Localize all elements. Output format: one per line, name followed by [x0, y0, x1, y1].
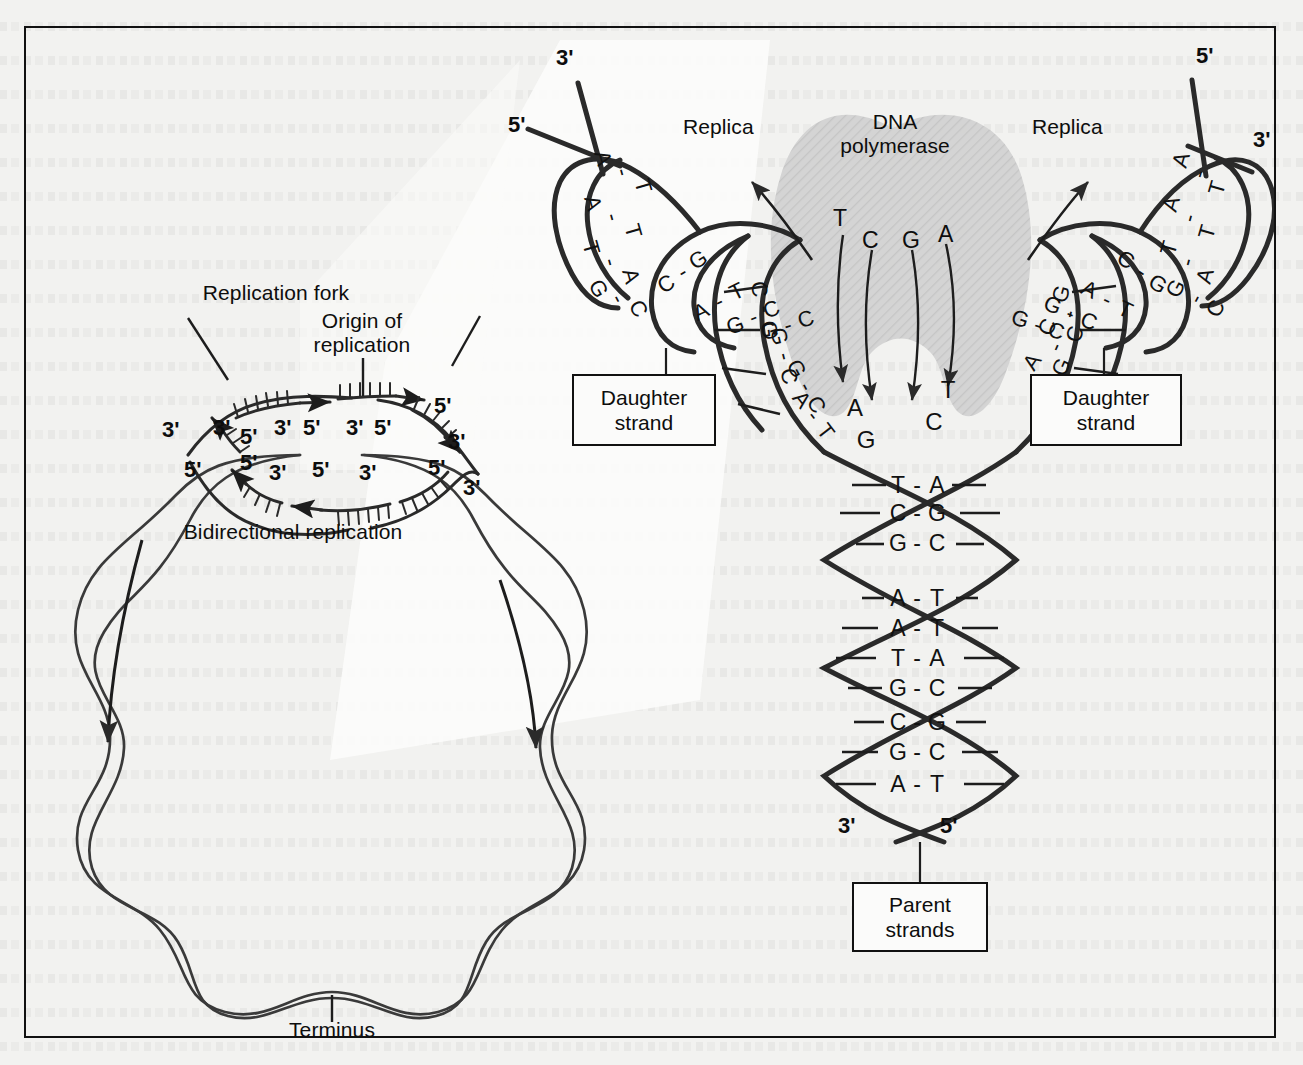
prime-parent-3: 3' [838, 814, 856, 839]
svg-text:A: A [890, 585, 906, 611]
svg-text:-: - [913, 771, 921, 797]
svg-text:G: G [889, 675, 907, 701]
free-nucleotide-g: G [902, 228, 920, 254]
bubble-prime-7: 5' [303, 416, 321, 441]
prime-right-replica-5: 5' [1196, 44, 1214, 69]
svg-text:-: - [913, 530, 921, 556]
svg-text:C: C [890, 709, 907, 735]
svg-text:T: T [891, 472, 905, 498]
label-replica-left: Replica [683, 115, 754, 139]
free-nucleotide-c: C [862, 228, 879, 254]
svg-text:T: T [930, 585, 944, 611]
box-parent-strands: Parent strands [852, 882, 988, 952]
replica-arrow-right [1028, 182, 1088, 260]
svg-text:G: G [889, 530, 907, 556]
bubble-prime-14: 3' [359, 461, 377, 486]
svg-text:C: C [890, 500, 907, 526]
box-daughter-right-line1: Daughter [1063, 385, 1149, 410]
svg-text:A: A [890, 615, 906, 641]
svg-text:G: G [928, 500, 946, 526]
box-daughter-strand-left: Daughter strand [572, 374, 716, 446]
svg-text:A: A [847, 394, 863, 421]
svg-text:-: - [913, 645, 921, 671]
arrow-ul [300, 402, 330, 403]
svg-text:T: T [1155, 238, 1183, 258]
bubble-prime-8: 3' [346, 416, 364, 441]
svg-text:G: G [928, 709, 946, 735]
svg-text:T: T [812, 418, 840, 444]
label-dna-polymerase-line1: DNA [830, 110, 960, 134]
svg-text:T: T [1193, 222, 1221, 242]
label-dna-polymerase-line2: polymerase [830, 134, 960, 158]
prime-right-replica-3: 3' [1253, 128, 1271, 153]
svg-text:T: T [941, 376, 956, 403]
svg-text:T: T [1114, 295, 1137, 323]
svg-text:A: A [929, 472, 945, 498]
label-terminus: Terminus [232, 1018, 432, 1042]
label-origin-of-replication-line1: Origin of [262, 309, 462, 333]
box-daughter-left-line2: strand [601, 410, 687, 435]
svg-text:A: A [1017, 348, 1046, 374]
bubble-prime-13: 5' [312, 458, 330, 483]
box-parent-line1: Parent [886, 892, 955, 917]
svg-text:T: T [1203, 178, 1231, 198]
bubble-prime-0: 3' [162, 418, 180, 443]
svg-text:-: - [913, 615, 921, 641]
prime-parent-5: 5' [940, 814, 958, 839]
svg-text:-: - [913, 500, 921, 526]
bubble-prime-15: 3' [463, 476, 481, 501]
free-nucleotide-a: A [938, 222, 953, 248]
svg-text:-: - [913, 739, 921, 765]
bubble-prime-12: 5' [428, 456, 446, 481]
bubble-prime-10: 5' [434, 394, 452, 419]
svg-text:T: T [930, 615, 944, 641]
svg-text:A: A [1191, 265, 1219, 286]
box-daughter-right-line2: strand [1063, 410, 1149, 435]
svg-text:-: - [913, 675, 921, 701]
svg-text:-: - [913, 585, 921, 611]
bubble-prime-3: 5' [240, 425, 258, 450]
box-daughter-left-line1: Daughter [601, 385, 687, 410]
label-bidirectional-replication: Bidirectional replication [128, 520, 458, 544]
svg-text:T: T [930, 771, 944, 797]
figure-page: A - T A - T T - A G - C C - G A - T G [0, 0, 1303, 1065]
bubble-prime-2: 3' [213, 416, 231, 441]
svg-text:C: C [929, 739, 946, 765]
parent-helix-letters: T-A C-G G-C A-T A-T T-A G-C C-G G-C A-T [889, 472, 946, 797]
svg-text:-: - [1099, 286, 1117, 312]
label-replication-fork: Replication fork [176, 281, 376, 305]
bubble-prime-11: 3' [448, 430, 466, 455]
bubble-prime-5: 3' [269, 461, 287, 486]
svg-text:T: T [891, 645, 905, 671]
leader-replication-fork-left [188, 318, 228, 380]
svg-text:C: C [746, 280, 773, 299]
svg-text:C: C [929, 675, 946, 701]
box-parent-line2: strands [886, 917, 955, 942]
svg-text:G: G [889, 739, 907, 765]
bubble-prime-1: 5' [184, 458, 202, 483]
box-daughter-strand-right: Daughter strand [1030, 374, 1182, 446]
arrow-lr [292, 506, 322, 510]
svg-text:-: - [913, 709, 921, 735]
prime-left-replica-5: 5' [508, 113, 526, 138]
svg-text:C: C [929, 530, 946, 556]
svg-text:A: A [1167, 149, 1195, 170]
svg-text:-: - [913, 472, 921, 498]
svg-text:A: A [929, 645, 945, 671]
svg-text:A: A [890, 771, 906, 797]
label-replica-right: Replica [1032, 115, 1103, 139]
svg-text:C: C [925, 408, 942, 435]
label-origin-of-replication-line2: replication [262, 333, 462, 357]
bubble-prime-9: 5' [374, 416, 392, 441]
prime-left-replica-3: 3' [556, 46, 574, 71]
svg-text:G: G [857, 426, 876, 453]
free-nucleotide-t: T [833, 206, 847, 232]
bubble-prime-6: 3' [274, 416, 292, 441]
bubble-prime-4: 5' [240, 451, 258, 476]
svg-text:A: A [1157, 193, 1185, 214]
